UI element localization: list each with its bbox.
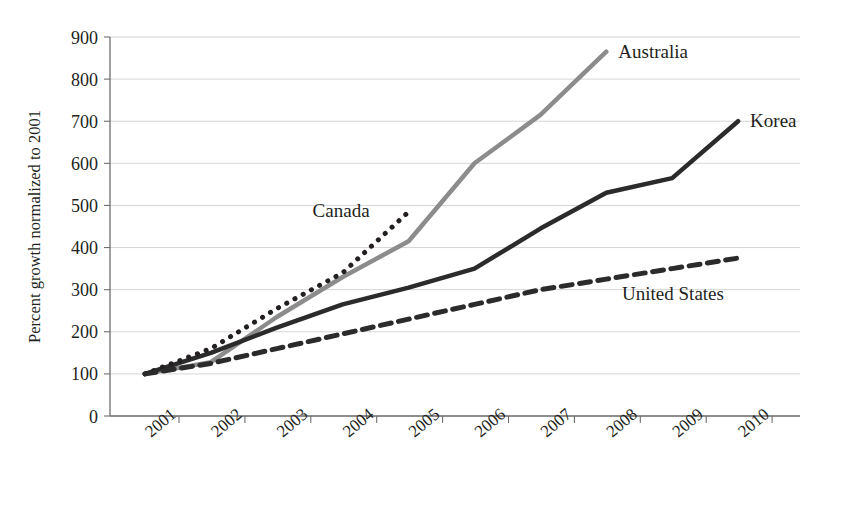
y-tick-label: 900 — [71, 28, 98, 48]
x-tick-label: 2001 — [141, 405, 179, 441]
y-tick-label: 400 — [71, 238, 98, 258]
series-label-australia: Australia — [618, 41, 688, 62]
x-tick-label: 2006 — [471, 405, 509, 441]
y-tick-label: 300 — [71, 280, 98, 300]
x-axis-ticks: 2001200220032004200520062007200820092010 — [141, 404, 772, 441]
series-labels: AustraliaKoreaCanadaUnited States — [313, 41, 797, 304]
series-label-korea: Korea — [750, 110, 797, 131]
y-tick-label: 100 — [71, 364, 98, 384]
x-tick-label: 2003 — [273, 405, 311, 441]
data-series — [145, 52, 738, 374]
x-tick-label: 2009 — [669, 405, 707, 441]
x-tick-label: 2004 — [339, 404, 378, 441]
y-tick-label: 700 — [71, 112, 98, 132]
y-tick-label: 500 — [71, 196, 98, 216]
x-tick-label: 2005 — [405, 405, 443, 441]
y-axis-ticks: 0100200300400500600700800900 — [71, 28, 110, 427]
x-tick-label: 2010 — [734, 405, 772, 441]
y-tick-label: 600 — [71, 154, 98, 174]
y-axis-title-text: Percent growth normalized to 2001 — [25, 110, 44, 343]
x-tick-label: 2008 — [603, 405, 641, 441]
chart-figure: 0100200300400500600700800900 20012002200… — [0, 0, 847, 508]
y-axis-title: Percent growth normalized to 2001 — [25, 110, 44, 343]
line-chart: 0100200300400500600700800900 20012002200… — [0, 0, 847, 508]
series-label-united-states: United States — [622, 283, 724, 304]
x-tick-label: 2002 — [207, 405, 245, 441]
series-line-australia — [145, 52, 606, 374]
series-label-canada: Canada — [313, 200, 371, 221]
y-tick-label: 200 — [71, 322, 98, 342]
y-tick-label: 800 — [71, 70, 98, 90]
series-line-united-states — [145, 258, 738, 374]
y-tick-label: 0 — [89, 407, 98, 427]
x-tick-label: 2007 — [537, 404, 576, 441]
